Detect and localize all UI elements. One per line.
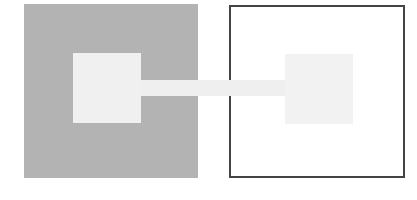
connector-bar xyxy=(140,80,290,96)
right-inner-square xyxy=(285,54,353,124)
left-inner-square xyxy=(73,53,141,123)
